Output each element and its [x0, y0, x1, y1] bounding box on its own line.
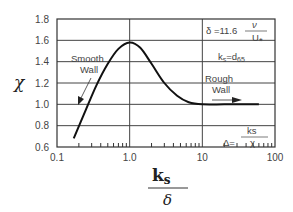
delta-definition-den-sub: *	[259, 35, 263, 46]
y-tick-labels: 0.60.81.01.21.41.61.8	[35, 14, 49, 153]
Delta-definition-left: Δ=	[223, 137, 235, 148]
x-tick-label: 1.0	[123, 152, 137, 163]
y-tick-label: 0.8	[35, 120, 49, 131]
y-tick-label: 0.6	[35, 142, 49, 153]
rough-wall-label-1: Rough	[205, 73, 233, 84]
x-tick-labels: 0.11.010100	[50, 152, 284, 163]
y-axis-label: χ	[13, 72, 26, 92]
Delta-definition-den: χ	[250, 137, 255, 148]
delta-definition-num: ν	[252, 19, 257, 30]
x-tick-label: 0.1	[50, 152, 64, 163]
rough-wall-arrowhead-icon	[232, 97, 242, 103]
smooth-wall-arrow	[80, 78, 91, 100]
delta-definition-left: δ =11.6	[206, 25, 237, 36]
ks-definition: ks=d65	[218, 51, 245, 63]
x-tick-label: 10	[197, 152, 209, 163]
y-tick-label: 1.6	[35, 35, 49, 46]
y-tick-label: 1.8	[35, 14, 49, 25]
y-tick-label: 1.4	[35, 56, 49, 67]
Delta-definition-num: ks	[247, 125, 257, 136]
x-minor-ticks	[79, 143, 272, 147]
rough-wall-label-2: Wall	[212, 84, 230, 95]
y-tick-label: 1.0	[35, 99, 49, 110]
delta-definition-den: U	[252, 32, 259, 43]
x-tick-label: 100	[267, 152, 284, 163]
grid-lines	[57, 19, 275, 147]
x-axis-label-denominator: δ	[163, 191, 172, 209]
x-axis-label-numerator: ks	[152, 165, 171, 187]
y-tick-label: 1.2	[35, 78, 49, 89]
smooth-wall-label-1: Smooth	[71, 53, 104, 64]
chi-vs-ks-delta-chart: 0.60.81.01.21.41.61.8 0.11.010100 χ Smoo…	[0, 0, 293, 212]
smooth-wall-label-2: Wall	[80, 64, 98, 75]
